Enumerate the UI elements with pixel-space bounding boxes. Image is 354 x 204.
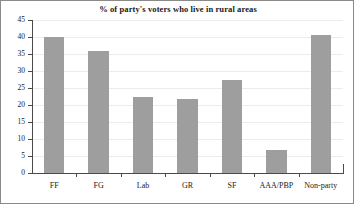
bar bbox=[311, 35, 331, 173]
x-tick-label: Lab bbox=[121, 181, 165, 191]
bar bbox=[177, 99, 197, 173]
y-tick-label: 40 bbox=[1, 33, 25, 41]
x-tick-label: SF bbox=[210, 181, 254, 191]
x-tick-label: Non-party bbox=[299, 181, 343, 191]
bar bbox=[44, 37, 64, 173]
y-tick-label: 20 bbox=[1, 101, 25, 109]
x-tick-label: GR bbox=[165, 181, 209, 191]
y-tick-label: 5 bbox=[1, 152, 25, 160]
x-tick-mark bbox=[210, 173, 211, 177]
x-tick-mark bbox=[254, 173, 255, 177]
y-tick-label: 25 bbox=[1, 84, 25, 92]
chart-title: % of party's voters who live in rural ar… bbox=[1, 4, 354, 14]
x-tick-label: AAA/PBP bbox=[254, 181, 298, 191]
bar bbox=[133, 97, 153, 174]
bars-layer bbox=[32, 20, 343, 173]
y-tick-label: 45 bbox=[1, 16, 25, 24]
y-tick-label: 0 bbox=[1, 169, 25, 177]
x-tick-label: FG bbox=[76, 181, 120, 191]
x-tick-mark bbox=[165, 173, 166, 177]
y-tick-label: 35 bbox=[1, 50, 25, 58]
x-tick-mark bbox=[121, 173, 122, 177]
y-tick-label: 15 bbox=[1, 118, 25, 126]
x-tick-mark bbox=[76, 173, 77, 177]
y-tick-label: 10 bbox=[1, 135, 25, 143]
x-axis-right-cap bbox=[343, 164, 344, 174]
x-axis-line bbox=[32, 173, 344, 174]
y-tick-label: 30 bbox=[1, 67, 25, 75]
bar bbox=[88, 51, 108, 173]
chart-figure: % of party's voters who live in rural ar… bbox=[0, 0, 354, 204]
x-tick-label: FF bbox=[32, 181, 76, 191]
bar bbox=[222, 80, 242, 174]
bar bbox=[266, 150, 286, 173]
x-tick-mark bbox=[299, 173, 300, 177]
